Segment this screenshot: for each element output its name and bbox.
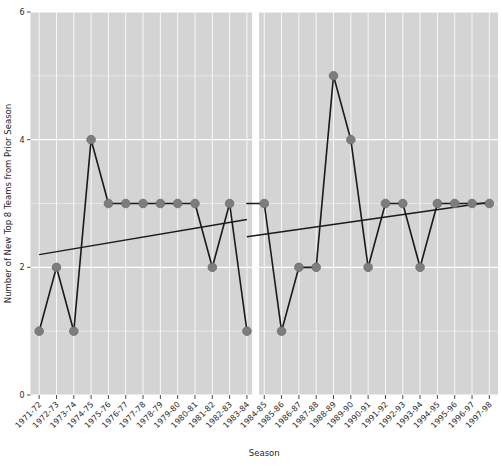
data-point	[450, 199, 459, 208]
data-point	[121, 199, 130, 208]
data-point	[433, 199, 442, 208]
data-point	[347, 135, 356, 144]
data-point	[173, 199, 182, 208]
data-point	[364, 263, 373, 272]
data-point	[208, 263, 217, 272]
data-point	[139, 199, 148, 208]
data-point	[295, 263, 304, 272]
y-axis-title: Number of New Top 8 Teams from Prior Sea…	[3, 104, 13, 303]
data-point	[87, 135, 96, 144]
data-point	[191, 199, 200, 208]
x-axis-title: Season	[249, 448, 280, 458]
data-point	[69, 327, 78, 336]
data-point	[225, 199, 234, 208]
data-point	[260, 199, 269, 208]
data-point	[156, 199, 165, 208]
chart-container: 0246Number of New Top 8 Teams from Prior…	[0, 0, 501, 468]
data-point	[104, 199, 113, 208]
data-point	[468, 199, 477, 208]
data-point	[485, 199, 494, 208]
y-tick-label: 2	[19, 263, 24, 272]
data-point	[312, 263, 321, 272]
x-axis: 1971-721972-731973-741974-751975-761976-…	[14, 395, 494, 458]
data-point	[381, 199, 390, 208]
line-chart: 0246Number of New Top 8 Teams from Prior…	[0, 0, 501, 468]
data-point	[52, 263, 61, 272]
y-tick-label: 0	[19, 391, 24, 400]
data-point	[243, 327, 252, 336]
y-tick-label: 4	[19, 136, 24, 145]
y-axis: 0246Number of New Top 8 Teams from Prior…	[3, 8, 31, 400]
data-point	[416, 263, 425, 272]
data-point	[277, 327, 286, 336]
data-point	[329, 72, 338, 81]
data-point	[398, 199, 407, 208]
y-tick-label: 6	[19, 8, 24, 17]
data-point	[35, 327, 44, 336]
